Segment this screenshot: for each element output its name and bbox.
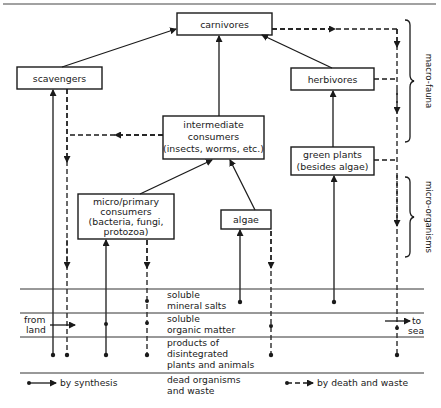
flow-label: land (26, 324, 46, 335)
layer-label: mineral salts (167, 300, 226, 311)
from-land-label: from land (24, 314, 46, 335)
micro-organisms-bracket: micro-organisms (405, 177, 434, 257)
layer-label: disintegrated (167, 348, 228, 359)
layer-dead-organisms: dead organisms and waste (167, 374, 241, 396)
node-label: carnivores (200, 19, 249, 30)
layer-label: soluble (167, 313, 200, 324)
node-label: herbivores (308, 74, 358, 85)
node-label: (besides algae) (297, 161, 369, 172)
food-web-diagram: carnivores scavengers herbivores interme… (0, 0, 441, 408)
legend-label: by death and waste (317, 377, 408, 388)
layer-organic-matter: soluble organic matter (167, 313, 235, 335)
node-label: consumers (188, 131, 239, 142)
node-intermediate-consumers: intermediate consumers (insects, worms, … (163, 116, 264, 159)
layer-label: dead organisms (167, 374, 241, 385)
node-carnivores: carnivores (177, 13, 272, 35)
layer-label: soluble (167, 289, 200, 300)
micro-organisms-label: micro-organisms (424, 181, 434, 254)
layer-mineral-salts: soluble mineral salts (167, 289, 226, 311)
flow-label: sea (408, 325, 424, 336)
node-label: intermediate (183, 119, 244, 130)
node-micro-primary-consumers: micro/primary consumers (bacteria, fungi… (78, 194, 174, 239)
legend-label: by synthesis (60, 377, 118, 388)
node-label: algae (233, 214, 259, 225)
layer-products: products of disintegrated plants and ani… (167, 337, 254, 370)
legend-death-waste: by death and waste (285, 377, 408, 388)
to-sea-label: to sea (408, 315, 424, 336)
node-algae: algae (221, 210, 271, 229)
node-label: scavengers (33, 73, 87, 84)
node-green-plants: green plants (besides algae) (291, 147, 374, 175)
layer-label: plants and animals (167, 359, 254, 370)
node-label: (insects, worms, etc.) (163, 143, 264, 154)
macro-fauna-label: macro-fauna (424, 54, 434, 109)
node-herbivores: herbivores (291, 68, 374, 90)
layer-label: and waste (167, 385, 215, 396)
layer-label: products of (167, 337, 220, 348)
layer-label: organic matter (167, 324, 235, 335)
node-label: protozoa) (104, 226, 149, 237)
node-label: green plants (303, 149, 362, 160)
legend-synthesis: by synthesis (27, 377, 118, 388)
macro-fauna-bracket: macro-fauna (405, 20, 434, 142)
node-scavengers: scavengers (17, 67, 102, 89)
